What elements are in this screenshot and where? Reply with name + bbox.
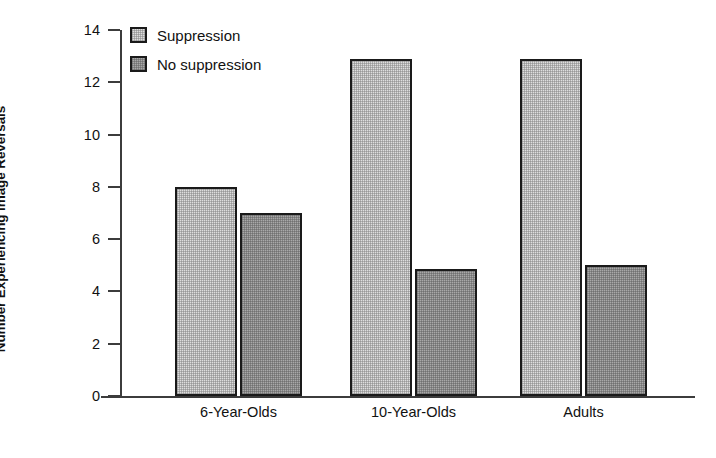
legend-item-suppression: Suppression <box>130 22 261 48</box>
chart-legend: Suppression No suppression <box>130 22 261 80</box>
legend-label-suppression: Suppression <box>157 27 240 44</box>
legend-swatch-no-suppression-icon <box>130 56 147 72</box>
y-axis-tick <box>108 29 120 31</box>
x-axis-group-label-6-year-olds: 6-Year-Olds <box>175 404 302 420</box>
bar-chart: Number Experiencing Image Reversals 0246… <box>0 0 716 458</box>
y-axis-tick <box>108 290 120 292</box>
bar-6-year-olds-suppression <box>175 187 237 396</box>
bar-adults-no-suppression <box>585 265 647 396</box>
x-axis-group-label-10-year-olds: 10-Year-Olds <box>350 404 477 420</box>
y-axis-tick-label: 2 <box>70 336 100 352</box>
y-axis-tick-label: 14 <box>70 22 100 38</box>
y-axis-tick-label: 10 <box>70 127 100 143</box>
y-axis-tick <box>108 238 120 240</box>
y-axis-tick-label: 6 <box>70 231 100 247</box>
bar-adults-suppression <box>520 59 582 396</box>
y-axis-tick <box>108 134 120 136</box>
y-axis-tick-label: 4 <box>70 283 100 299</box>
y-axis-tick-label: 12 <box>70 74 100 90</box>
legend-swatch-suppression-icon <box>130 27 147 43</box>
legend-item-no-suppression: No suppression <box>130 51 261 77</box>
bar-6-year-olds-no-suppression <box>240 213 302 396</box>
x-axis-line <box>101 396 695 398</box>
y-axis-tick <box>108 395 120 397</box>
y-axis-title: Number Experiencing Image Reversals <box>0 0 40 458</box>
x-axis-group-label-adults: Adults <box>520 404 647 420</box>
y-axis-title-label: Number Experiencing Image Reversals <box>0 106 8 352</box>
legend-label-no-suppression: No suppression <box>157 56 261 73</box>
plot-area <box>120 30 695 396</box>
y-axis-tick <box>108 186 120 188</box>
y-axis-tick <box>108 343 120 345</box>
bar-10-year-olds-no-suppression <box>415 269 477 396</box>
y-axis-tick <box>108 81 120 83</box>
y-axis-tick-label: 8 <box>70 179 100 195</box>
y-axis-tick-label: 0 <box>70 388 100 404</box>
bar-10-year-olds-suppression <box>350 59 412 396</box>
